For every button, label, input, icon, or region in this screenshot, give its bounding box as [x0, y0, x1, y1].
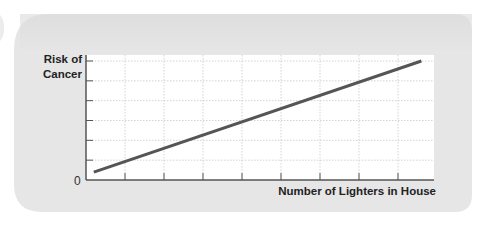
y-axis-title-line-2: Cancer [30, 67, 82, 82]
x-axis-title: Number of Lighters in House [230, 184, 436, 199]
y-axis-title-line-1: Risk of [30, 52, 82, 67]
y-axis-title: Risk of Cancer [30, 52, 82, 82]
panel-top-band [20, 14, 472, 50]
origin-label: 0 [74, 174, 81, 188]
